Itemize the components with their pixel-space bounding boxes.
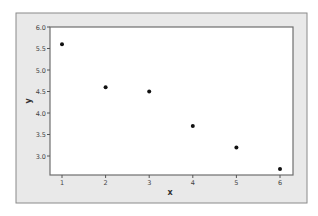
- y-tick-label: 3.0: [36, 153, 46, 161]
- x-tick-label: 4: [191, 179, 195, 187]
- plot-area: [50, 27, 293, 175]
- scatter-chart: 3.03.54.04.55.05.56.0 123456 x y: [0, 0, 318, 216]
- y-tick-label: 5.5: [36, 45, 46, 53]
- x-tick-label: 2: [104, 179, 108, 187]
- data-point: [191, 124, 195, 128]
- x-tick-label: 1: [60, 179, 64, 187]
- x-axis-label: x: [167, 188, 173, 197]
- data-point: [60, 42, 64, 46]
- x-tick-label: 5: [234, 179, 238, 187]
- data-point: [104, 85, 108, 89]
- x-tick-label: 6: [278, 179, 282, 187]
- data-point: [278, 167, 282, 171]
- data-point: [234, 145, 238, 149]
- data-point: [147, 90, 151, 94]
- y-tick-label: 4.5: [36, 88, 46, 96]
- y-axis-label: y: [24, 98, 33, 104]
- y-tick-label: 5.0: [36, 67, 46, 75]
- y-tick-label: 6.0: [36, 24, 46, 32]
- y-tick-label: 3.5: [36, 131, 46, 139]
- x-tick-label: 3: [147, 179, 151, 187]
- y-tick-label: 4.0: [36, 110, 46, 118]
